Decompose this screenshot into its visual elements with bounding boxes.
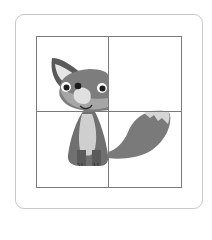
puzzle-grid <box>36 36 182 188</box>
grid-divider-horizontal <box>36 111 182 112</box>
grid-divider-vertical <box>108 36 109 188</box>
